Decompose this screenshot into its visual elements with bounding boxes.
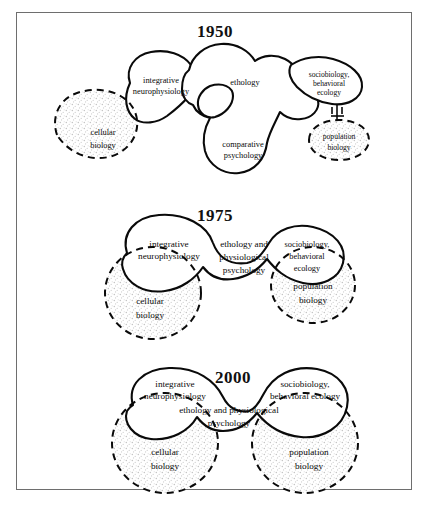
panel-year-1975: 1975 <box>197 206 233 225</box>
figure-frame: 1950 integrative neurophysiology etholog… <box>16 12 412 490</box>
label-comparative-psychology-1950-l1: comparative <box>222 140 264 149</box>
label-integrative-neurophysiology-2000-l1: integrative <box>155 379 194 389</box>
label-sociobiology-1950-l3: ecology <box>317 88 341 97</box>
label-population-biology-1975-l1: population <box>293 281 333 291</box>
label-ethology-1950: ethology <box>230 78 260 87</box>
label-population-biology-1975-l2: biology <box>299 295 327 305</box>
label-integrative-neurophysiology-1975-l2: neurophysiology <box>138 251 200 261</box>
label-sociobiology-2000-l1: sociobiology, <box>280 379 329 389</box>
panel-year-1950: 1950 <box>197 22 233 41</box>
label-sociobiology-1975-l3: ecology <box>294 264 321 273</box>
label-ethology-physio-2000-l1: ethology and physiological <box>179 405 279 415</box>
figure-page: 1950 integrative neurophysiology etholog… <box>0 0 428 506</box>
label-population-biology-2000-l2: biology <box>295 461 323 471</box>
label-population-biology-1950-l1: population <box>323 132 356 141</box>
label-sociobiology-2000-l2: behavioral ecology <box>270 391 341 401</box>
label-cellular-biology-1975-l1: cellular <box>136 296 164 306</box>
panel-year-2000: 2000 <box>215 368 251 387</box>
label-ethology-physio-1975-l2: physiological <box>219 252 269 262</box>
label-integrative-neurophysiology-1950-l2: neurophysiology <box>133 87 190 96</box>
label-cellular-biology-2000-l2: biology <box>151 461 179 471</box>
label-sociobiology-1975-l2: behavioral <box>289 252 325 261</box>
label-cellular-biology-1975-l2: biology <box>136 310 164 320</box>
label-cellular-biology-1950-l2: biology <box>90 141 116 150</box>
label-integrative-neurophysiology-1975-l1: integrative <box>149 239 188 249</box>
label-integrative-neurophysiology-2000-l2: neurophysiology <box>144 391 206 401</box>
label-integrative-neurophysiology-1950-l1: integrative <box>143 76 179 85</box>
label-ethology-physio-1975-l1: ethology and <box>220 239 268 249</box>
panel-2000: 2000 integrative neurophysiology etholog… <box>17 351 413 503</box>
label-ethology-physio-2000-l2: psychology <box>208 418 251 428</box>
label-cellular-biology-1950-l1: cellular <box>90 128 115 137</box>
label-sociobiology-1950-l1: sociobiology, <box>309 70 350 79</box>
label-cellular-biology-2000-l1: cellular <box>151 447 179 457</box>
label-population-biology-1950-l2: biology <box>327 143 350 152</box>
label-sociobiology-1975-l1: sociobiology, <box>285 240 330 249</box>
label-ethology-physio-1975-l3: psychology <box>223 265 266 275</box>
panel-1975: 1975 integrative neurophysiology etholog… <box>17 191 413 351</box>
label-population-biology-2000-l1: population <box>289 447 329 457</box>
label-comparative-psychology-1950-l2: psychology <box>224 151 263 160</box>
panel-1950: 1950 integrative neurophysiology etholog… <box>17 13 413 191</box>
label-sociobiology-1950-l2: behavioral <box>313 79 345 88</box>
